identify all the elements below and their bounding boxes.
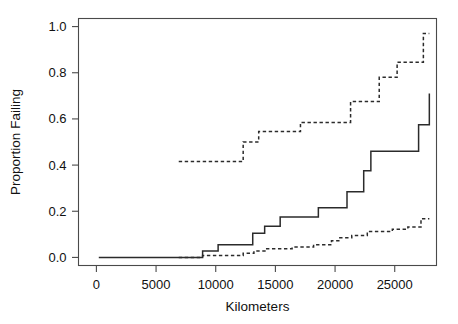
x-tick-label: 5000 — [142, 277, 171, 292]
data-curves — [99, 34, 430, 258]
x-tick-label: 20000 — [317, 277, 353, 292]
y-tick-label: 0.0 — [48, 250, 66, 265]
x-tick-label: 25000 — [377, 277, 413, 292]
x-axis-ticks: 0500010000150002000025000 — [93, 266, 413, 292]
x-axis-title: Kilometers — [226, 299, 290, 314]
y-tick-label: 0.6 — [48, 111, 66, 126]
y-axis-ticks: 0.00.20.40.60.81.0 — [48, 19, 78, 265]
x-tick-label: 15000 — [257, 277, 293, 292]
y-tick-label: 0.4 — [48, 158, 66, 173]
solid-step-curve — [99, 94, 430, 258]
y-axis-title: Proportion Failing — [8, 89, 23, 195]
y-tick-label: 0.2 — [48, 204, 66, 219]
y-tick-label: 1.0 — [48, 19, 66, 34]
x-tick-label: 0 — [93, 277, 100, 292]
dashed-upper-step-curve — [179, 34, 430, 162]
x-tick-label: 10000 — [198, 277, 234, 292]
chart-figure: 0500010000150002000025000 0.00.20.40.60.… — [0, 0, 458, 324]
proportion-failing-step-plot: 0500010000150002000025000 0.00.20.40.60.… — [0, 0, 458, 324]
y-tick-label: 0.8 — [48, 65, 66, 80]
